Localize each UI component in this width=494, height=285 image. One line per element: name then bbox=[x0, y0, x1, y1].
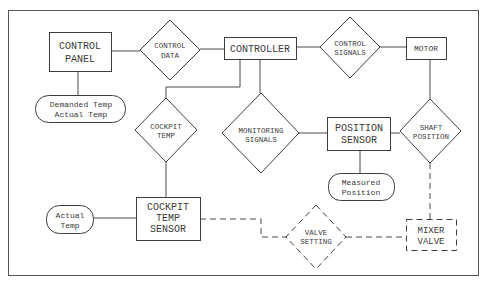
flow-label: SHAFT bbox=[420, 124, 443, 132]
entity-controller[interactable]: CONTROLLER bbox=[225, 38, 297, 60]
flow-monitoring-signals[interactable]: MONITORING SIGNALS bbox=[222, 93, 299, 173]
entity-label: TEMP bbox=[156, 213, 180, 224]
entity-label: MIXER bbox=[417, 226, 445, 236]
flow-label: CONTROL bbox=[334, 40, 366, 48]
data-label: Actual bbox=[56, 211, 85, 220]
flow-label: CONTROL bbox=[154, 42, 186, 50]
flow-shaft-position[interactable]: SHAFT POSITION bbox=[400, 99, 461, 163]
data-label: Position bbox=[342, 188, 381, 197]
flow-label: DATA bbox=[161, 52, 180, 60]
flow-control-signals[interactable]: CONTROL SIGNALS bbox=[320, 17, 380, 78]
data-label: Measured bbox=[342, 178, 381, 187]
entity-control-panel[interactable]: CONTROL PANEL bbox=[50, 33, 112, 72]
flow-label: MONITORING bbox=[238, 127, 284, 135]
entity-position-sensor[interactable]: POSITION SENSOR bbox=[328, 118, 391, 151]
flow-label: SETTING bbox=[300, 238, 332, 246]
flow-control-data[interactable]: CONTROL DATA bbox=[140, 20, 200, 80]
entity-label: PANEL bbox=[65, 54, 95, 65]
entity-label: POSITION bbox=[335, 123, 383, 134]
flow-label: COCKPIT bbox=[150, 123, 182, 131]
data-demanded-actual-temp[interactable]: Demanded Temp Actual Temp bbox=[36, 96, 126, 123]
entity-motor[interactable]: MOTOR bbox=[407, 38, 447, 60]
entity-label: MOTOR bbox=[414, 44, 438, 53]
flow-label: POSITION bbox=[413, 133, 449, 141]
flow-label: TEMP bbox=[157, 132, 176, 140]
entity-label: COCKPIT bbox=[147, 202, 189, 213]
flow-label: SIGNALS bbox=[334, 49, 366, 57]
data-measured-position[interactable]: Measured Position bbox=[329, 174, 395, 201]
data-label: Demanded Temp bbox=[50, 100, 113, 109]
data-actual-temp[interactable]: Actual Temp bbox=[47, 206, 94, 234]
entity-label: CONTROL bbox=[59, 41, 101, 52]
flow-label: VALVE bbox=[305, 229, 328, 237]
entity-cockpit-temp-sensor[interactable]: COCKPIT TEMP SENSOR bbox=[137, 198, 201, 241]
diagram-canvas: CONTROL PANEL CONTROL DATA CONTROLLER CO… bbox=[0, 0, 494, 285]
entity-label: CONTROLLER bbox=[230, 44, 290, 55]
data-label: Temp bbox=[60, 221, 79, 230]
flow-label: SIGNALS bbox=[245, 136, 277, 144]
flow-valve-setting[interactable]: VALVE SETTING bbox=[286, 205, 346, 269]
entity-mixer-valve[interactable]: MIXER VALVE bbox=[407, 220, 457, 251]
entity-label: SENSOR bbox=[150, 224, 186, 235]
connector-sensor-valvesetting bbox=[200, 219, 286, 237]
entity-label: VALVE bbox=[417, 237, 444, 247]
flow-cockpit-temp[interactable]: COCKPIT TEMP bbox=[135, 98, 197, 162]
data-label: Actual Temp bbox=[55, 110, 108, 119]
entity-label: SENSOR bbox=[341, 135, 377, 146]
